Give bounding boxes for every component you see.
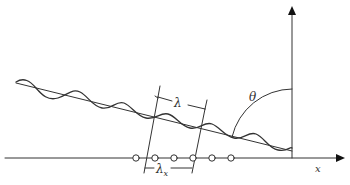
angle-label: θ (249, 90, 257, 104)
y-axis-arrow-icon (288, 6, 296, 15)
wavelength-bracket-left (158, 97, 172, 101)
wavelength-bracket-stub-1 (158, 86, 160, 97)
x-axis-label: x (315, 163, 321, 174)
projected-wavelength-subscript: x (164, 169, 169, 178)
x-axis-arrow-icon (336, 154, 345, 162)
array-element (171, 155, 177, 161)
array-element (152, 155, 158, 161)
array-element (133, 155, 139, 161)
wavelength-bracket-right (188, 105, 205, 109)
projected-wavelength-label: λx (155, 162, 169, 178)
wave-array-diagram: λ λx θ x (0, 0, 350, 185)
array-element (190, 155, 196, 161)
array-element (209, 155, 215, 161)
wavelength-bracket-stub-2 (205, 100, 207, 109)
array-element (228, 155, 234, 161)
wavelength-label: λ (173, 96, 182, 110)
angle-arc (232, 89, 292, 137)
wavefront-line-2 (192, 109, 205, 173)
